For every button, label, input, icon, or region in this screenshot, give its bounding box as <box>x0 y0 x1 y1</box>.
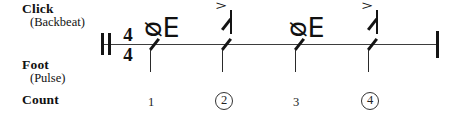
count-3: 3 <box>286 93 306 111</box>
count-2: 2 <box>215 92 233 110</box>
accent-icon: > <box>216 0 228 13</box>
opening-barline-thick-right <box>108 33 111 55</box>
count-1: 1 <box>141 93 161 111</box>
accent-icon: > <box>362 0 374 13</box>
count-4: 4 <box>361 92 379 110</box>
opening-barline-thick-left <box>101 33 104 55</box>
quarter-rest-icon: ᴓE <box>289 14 325 41</box>
quarter-rest-icon: ᴓE <box>144 14 180 41</box>
foot-stem <box>295 50 296 72</box>
staff: 4 4 ᴓE 1 > 2 ᴓE 3 > <box>0 0 460 126</box>
foot-stem <box>222 50 223 72</box>
time-signature: 4 4 <box>118 25 138 65</box>
foot-stem <box>150 50 151 72</box>
time-signature-numerator: 4 <box>118 25 138 45</box>
time-signature-denominator: 4 <box>118 45 138 65</box>
foot-stem <box>368 50 369 72</box>
rhythm-notation-diagram: Click (Backbeat) Foot (Pulse) Count 4 4 … <box>0 0 460 126</box>
closing-barline <box>436 31 439 58</box>
